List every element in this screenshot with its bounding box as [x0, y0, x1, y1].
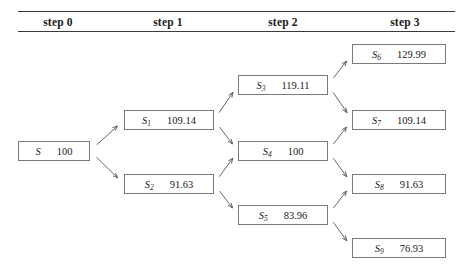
tree-node-s5: S583.96: [238, 205, 328, 225]
node-value: 91.63: [400, 179, 424, 190]
step-header-3: step 3: [355, 14, 455, 30]
tree-edge-s3-to-s7: [333, 92, 347, 112]
tree-edge-s3-to-s6: [334, 61, 347, 78]
node-value: 83.96: [284, 210, 308, 221]
tree-node-s: S100: [18, 141, 90, 161]
node-symbol-subscript: 8: [380, 183, 384, 192]
step-header-1: step 1: [118, 14, 218, 30]
node-value: 119.11: [281, 80, 309, 91]
tree-edge-s4-to-s7: [334, 127, 347, 144]
step-header-0: step 0: [8, 14, 108, 30]
tree-edge-s5-to-s9: [333, 222, 346, 240]
step-header-2: step 2: [233, 14, 333, 30]
tree-edge-s-to-s1: [97, 126, 118, 145]
node-value: 129.99: [397, 49, 426, 60]
node-symbol: S1: [142, 115, 151, 126]
tree-edge-s1-to-s3: [219, 92, 233, 112]
node-symbol-subscript: 5: [264, 214, 268, 223]
node-symbol: S6: [372, 49, 381, 60]
tree-edge-s2-to-s5: [220, 191, 233, 208]
node-symbol: S9: [375, 243, 384, 254]
binomial-tree-figure: step 0step 1step 2step 3 S100S1109.14S29…: [0, 0, 468, 270]
node-symbol: S4: [263, 146, 272, 157]
header-rule-top: [18, 11, 455, 12]
node-symbol-subscript: 1: [147, 119, 151, 128]
header-rule-bottom: [18, 31, 455, 32]
node-value: 76.93: [400, 243, 424, 254]
node-value: 91.63: [170, 179, 194, 190]
tree-edge-s4-to-s8: [333, 158, 346, 176]
node-value: 109.14: [167, 115, 196, 126]
tree-node-s6: S6129.99: [352, 44, 446, 64]
tree-node-s8: S891.63: [352, 174, 446, 194]
node-symbol: S7: [372, 115, 381, 126]
node-symbol-subscript: 6: [377, 53, 381, 62]
tree-node-s1: S1109.14: [124, 110, 214, 130]
node-symbol-subscript: 3: [262, 84, 266, 93]
tree-edge-s-to-s2: [96, 157, 117, 177]
tree-edge-s1-to-s4: [220, 127, 233, 144]
tree-node-s2: S291.63: [124, 174, 214, 194]
node-value: 109.14: [397, 115, 426, 126]
node-symbol: S8: [375, 179, 384, 190]
node-symbol: S2: [145, 179, 154, 190]
node-symbol-subscript: 9: [380, 247, 384, 256]
node-symbol-subscript: 4: [268, 150, 272, 159]
tree-edge-s5-to-s8: [334, 191, 347, 208]
tree-edge-s2-to-s4: [219, 158, 232, 176]
node-symbol-subscript: 7: [377, 119, 381, 128]
node-symbol: S3: [256, 80, 265, 91]
node-value: 100: [288, 146, 304, 157]
node-symbol: S5: [259, 210, 268, 221]
tree-edges: [0, 0, 468, 270]
node-symbol: S: [36, 146, 41, 157]
tree-node-s3: S3119.11: [238, 75, 328, 95]
tree-node-s7: S7109.14: [352, 110, 446, 130]
tree-node-s4: S4100: [238, 141, 328, 161]
node-value: 100: [57, 146, 73, 157]
tree-node-s9: S976.93: [352, 238, 446, 258]
node-symbol-subscript: 2: [150, 183, 154, 192]
